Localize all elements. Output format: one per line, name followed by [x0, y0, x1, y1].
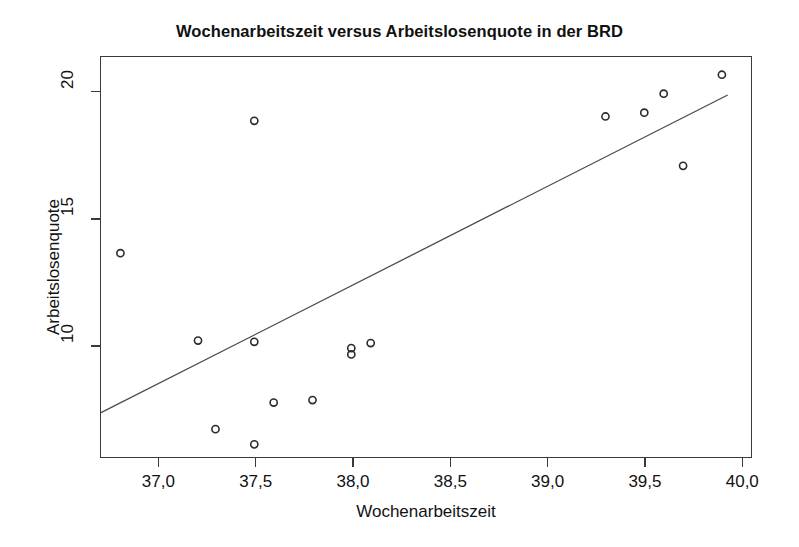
chart-figure: Wochenarbeitszeit versus Arbeitslosenquo… — [0, 0, 799, 547]
x-axis-tick — [352, 458, 354, 467]
data-point[interactable] — [309, 396, 316, 403]
data-point[interactable] — [718, 71, 725, 78]
data-point[interactable] — [367, 339, 374, 346]
data-point[interactable] — [117, 250, 124, 257]
data-point[interactable] — [212, 426, 219, 433]
data-point[interactable] — [602, 113, 609, 120]
y-axis-tick-label: 20 — [58, 70, 78, 110]
x-axis-tick — [742, 458, 744, 467]
x-axis-label: Wochenarbeitszeit — [100, 502, 752, 522]
x-axis-tick-label: 38,5 — [405, 472, 495, 492]
y-axis-tick — [91, 218, 100, 220]
regression-line — [101, 95, 728, 413]
y-axis-label-wrapper: Arbeitslosenquote — [44, 117, 64, 417]
x-axis-tick-label: 39,5 — [600, 472, 690, 492]
y-axis-tick — [91, 91, 100, 93]
data-point[interactable] — [251, 117, 258, 124]
chart-title: Wochenarbeitszeit versus Arbeitslosenquo… — [0, 22, 799, 41]
y-axis-tick — [91, 345, 100, 347]
x-axis-tick-label: 38,0 — [308, 472, 398, 492]
data-point[interactable] — [251, 441, 258, 448]
data-point[interactable] — [270, 399, 277, 406]
plot-area — [100, 56, 752, 458]
x-axis-tick-label: 37,0 — [113, 472, 203, 492]
data-point[interactable] — [680, 162, 687, 169]
plot-svg — [101, 57, 751, 457]
x-axis-tick-label: 40,0 — [697, 472, 787, 492]
x-axis-tick — [158, 458, 160, 467]
data-point[interactable] — [660, 90, 667, 97]
x-axis-tick — [450, 458, 452, 467]
x-axis-tick — [255, 458, 257, 467]
data-point[interactable] — [194, 337, 201, 344]
x-axis-tick — [547, 458, 549, 467]
y-axis-label: Arbeitslosenquote — [44, 199, 63, 335]
x-axis-tick-label: 39,0 — [503, 472, 593, 492]
data-point[interactable] — [251, 338, 258, 345]
x-axis-tick — [644, 458, 646, 467]
data-point[interactable] — [641, 109, 648, 116]
x-axis-tick-label: 37,5 — [211, 472, 301, 492]
